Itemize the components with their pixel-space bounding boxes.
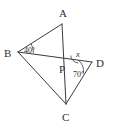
segment-dc <box>66 62 92 104</box>
geometry-canvas: A B C D P 40° 70° x <box>0 0 113 126</box>
angle-label-d: 70° <box>73 70 84 79</box>
geometry-figure: A B C D P 40° 70° x <box>0 0 113 126</box>
vertex-label-b: B <box>4 47 11 59</box>
angle-label-b: 40° <box>24 46 35 55</box>
vertex-label-p: P <box>59 63 65 75</box>
vertex-label-c: C <box>62 111 69 123</box>
segment-bc <box>18 52 66 104</box>
angle-label-x: x <box>75 49 80 59</box>
vertex-label-d: D <box>96 57 104 69</box>
vertex-label-a: A <box>59 7 67 19</box>
